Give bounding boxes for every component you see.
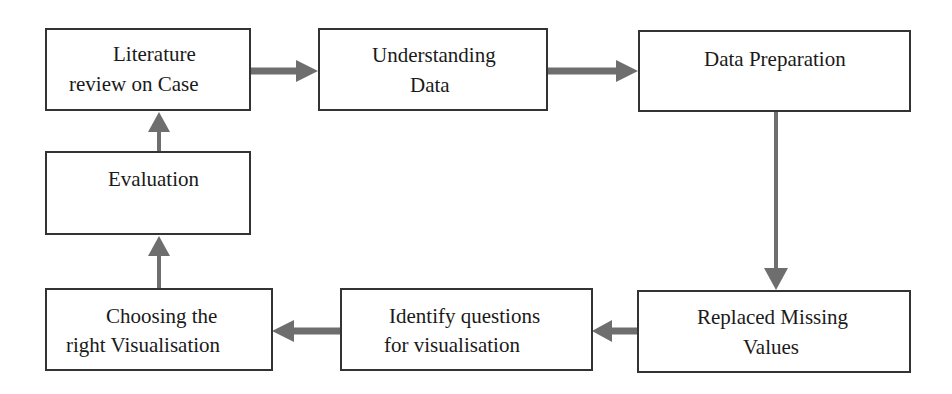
arrow-understanding-to-preparation [547, 60, 638, 82]
node-label-line1: Literature [113, 41, 196, 68]
node-label-line1: Understanding [372, 42, 496, 69]
node-label-line2: right Visualisation [66, 332, 220, 359]
arrow-preparation-to-missing [764, 111, 788, 290]
node-choosing-visualisation: Choosing the right Visualisation [45, 288, 273, 371]
node-label-line2: for visualisation [384, 332, 520, 359]
node-replaced-missing-values: Replaced Missing Values [637, 290, 911, 373]
node-label-line2: review on Case [69, 71, 198, 98]
arrow-choosing-to-evaluation [148, 236, 170, 288]
node-label-line1: Replaced Missing [697, 304, 848, 331]
node-understanding-data: Understanding Data [318, 28, 548, 111]
node-identify-questions: Identify questions for visualisation [340, 288, 593, 371]
arrow-literature-to-understanding [250, 60, 318, 82]
node-label-line1: Choosing the [106, 303, 217, 330]
node-label-line1: Identify questions [389, 303, 540, 330]
node-data-preparation: Data Preparation [638, 30, 911, 112]
node-label-line2: Values [743, 334, 799, 361]
node-literature-review: Literature review on Case [45, 28, 251, 111]
node-evaluation: Evaluation [45, 151, 251, 235]
node-label-line2: Data [410, 72, 450, 99]
node-label-line1: Evaluation [108, 166, 199, 193]
arrow-questions-to-choosing [272, 320, 340, 342]
arrow-missing-to-questions [592, 320, 637, 342]
arrow-evaluation-to-literature [148, 112, 170, 151]
node-label-line1: Data Preparation [704, 46, 846, 73]
